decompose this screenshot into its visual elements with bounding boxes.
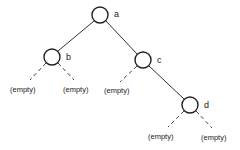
empty-edge-b (30, 63, 46, 80)
empty-edge-b (58, 63, 74, 80)
binary-tree-diagram: abcd (empty)(empty)(empty)(empty)(empty) (0, 0, 240, 150)
node-circle (44, 49, 60, 65)
node-circle (182, 97, 198, 113)
tree-nodes: abcd (44, 7, 209, 113)
node-d: d (182, 97, 209, 113)
empty-child-edges (30, 63, 212, 128)
node-b: b (44, 49, 71, 65)
edge-a-c (106, 21, 137, 54)
empty-label: (empty) (104, 86, 130, 95)
edge-a-b (58, 21, 94, 51)
node-circle (92, 7, 108, 23)
empty-edge-d (196, 111, 212, 128)
empty-label: (empty) (148, 132, 174, 141)
node-label: b (66, 52, 71, 62)
node-circle (135, 52, 151, 68)
node-label: c (157, 55, 162, 65)
node-c: c (135, 52, 162, 68)
node-label: a (114, 9, 119, 19)
edge-c-d (149, 66, 184, 99)
empty-label: (empty) (10, 85, 36, 94)
empty-child-labels: (empty)(empty)(empty)(empty)(empty) (10, 85, 227, 142)
node-a: a (92, 7, 119, 23)
empty-label: (empty) (63, 85, 89, 94)
empty-edge-c (120, 66, 137, 82)
empty-edge-d (168, 111, 184, 127)
empty-label: (empty) (201, 133, 227, 142)
node-label: d (204, 100, 209, 110)
